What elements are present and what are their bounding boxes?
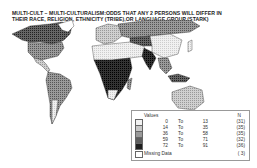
legend-n-header: N xyxy=(238,113,241,118)
legend-row: 72 To 91 (36) xyxy=(132,143,249,149)
region-south-america xyxy=(46,72,72,124)
region-china xyxy=(150,34,182,58)
region-europe xyxy=(96,24,122,44)
legend-swatch-missing xyxy=(135,151,143,158)
legend-header: Values xyxy=(144,113,158,118)
region-japan xyxy=(188,40,192,52)
legend: Values N 0 To 13 (31) 14 To 35 (35) 36 T… xyxy=(131,110,250,161)
legend-missing-row: Missing Data ( 3) xyxy=(132,151,249,157)
region-usa xyxy=(28,42,64,60)
region-se-asia xyxy=(158,58,172,74)
region-north-africa xyxy=(92,42,146,60)
region-mexico xyxy=(34,58,50,72)
region-australia xyxy=(172,86,204,110)
region-indonesia xyxy=(168,74,190,82)
legend-swatch xyxy=(135,143,143,150)
